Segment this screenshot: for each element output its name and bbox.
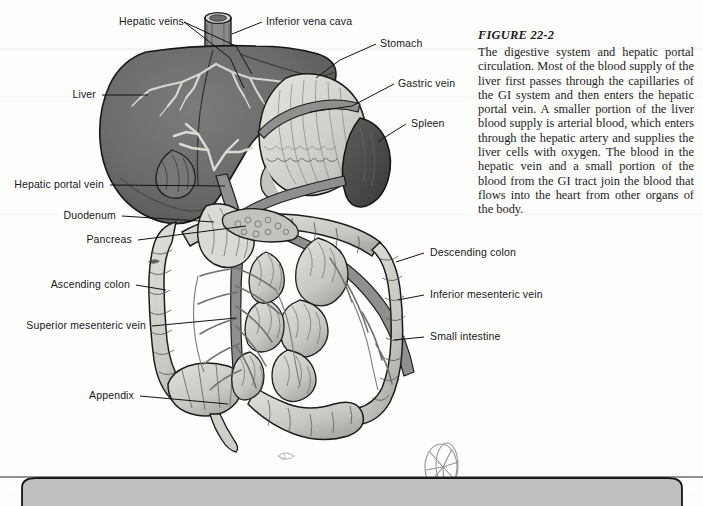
label-spleen: Spleen xyxy=(411,117,445,129)
figure-caption-text: The digestive system and hepatic portal … xyxy=(478,45,694,217)
small-sketch-mark xyxy=(278,453,294,460)
figure-number: FIGURE 22-2 xyxy=(478,28,694,43)
bottom-callout-box xyxy=(0,477,703,506)
label-superior-mesenteric-vein: Superior mesenteric vein xyxy=(0,319,146,331)
label-ascending-colon: Ascending colon xyxy=(0,278,130,290)
label-liver: Liver xyxy=(0,88,96,100)
label-inferior-vena-cava: Inferior vena cava xyxy=(266,15,352,27)
figure-caption-block: FIGURE 22-2 The digestive system and hep… xyxy=(478,28,694,217)
label-pancreas: Pancreas xyxy=(0,233,132,245)
label-hepatic-portal-vein: Hepatic portal vein xyxy=(0,178,104,190)
figure-page: Hepatic veins Inferior vena cava Stomach… xyxy=(0,0,703,506)
label-hepatic-veins: Hepatic veins xyxy=(0,15,184,27)
label-appendix: Appendix xyxy=(0,389,134,401)
label-gastric-vein: Gastric vein xyxy=(398,77,455,89)
label-small-intestine: Small intestine xyxy=(430,330,501,342)
small-intestine xyxy=(232,238,348,402)
label-descending-colon: Descending colon xyxy=(430,246,516,258)
label-duodenum: Duodenum xyxy=(0,209,116,221)
label-stomach: Stomach xyxy=(380,37,423,49)
label-inferior-mesenteric-vein: Inferior mesenteric vein xyxy=(430,288,543,300)
